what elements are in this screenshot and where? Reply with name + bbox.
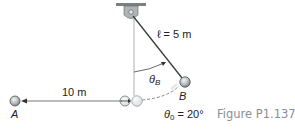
ball-b bbox=[180, 77, 190, 87]
theta-b-label: θB bbox=[149, 73, 161, 87]
ball-ghost-bottom bbox=[132, 96, 143, 107]
point-b-label: B bbox=[179, 90, 186, 102]
motion-blur bbox=[171, 84, 179, 91]
pendulum-string bbox=[133, 16, 182, 78]
distance-label: 10 m bbox=[62, 86, 86, 98]
distance-arrowhead bbox=[21, 99, 27, 104]
length-label: ℓ = 5 m bbox=[157, 28, 191, 40]
theta-b-arc bbox=[134, 63, 164, 72]
point-a-label: A bbox=[10, 108, 18, 120]
ball-a bbox=[10, 96, 20, 106]
ceiling-support bbox=[116, 3, 146, 19]
figure-caption: Figure P1.137 bbox=[217, 107, 295, 121]
pendulum-diagram: ℓ = 5 m θB B 10 m A θ0 = 20° Figure P1.1… bbox=[0, 0, 295, 130]
theta-0-label: θ0 = 20° bbox=[164, 108, 204, 122]
